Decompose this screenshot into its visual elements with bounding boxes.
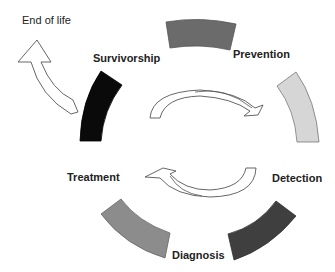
end-of-life-label: End of life (22, 14, 71, 26)
prevention-label: Prevention (233, 48, 290, 60)
prevention-segment (166, 19, 236, 50)
end-of-life-arrow-icon (18, 40, 78, 114)
clockwise-bottom-arrow-icon (145, 168, 256, 197)
treatment-segment (101, 199, 170, 258)
diagnosis-segment (228, 201, 296, 260)
diagnosis-label: Diagnosis (172, 249, 225, 261)
treatment-label: Treatment (67, 171, 120, 183)
survivorship-label: Survivorship (93, 52, 160, 64)
detection-segment (277, 72, 319, 142)
detection-label: Detection (272, 172, 322, 184)
cycle-diagram (0, 0, 335, 272)
survivorship-segment (80, 71, 122, 141)
